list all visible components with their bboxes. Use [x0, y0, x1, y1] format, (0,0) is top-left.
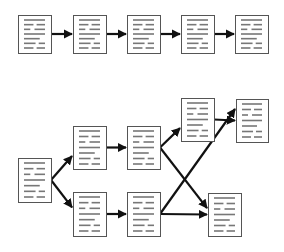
document-icon — [182, 16, 215, 54]
document-icon — [19, 159, 52, 203]
document-icon — [74, 16, 107, 54]
document-icon — [128, 193, 161, 237]
document-icon — [74, 193, 107, 237]
document-icon — [209, 194, 242, 237]
arrow-icon — [214, 120, 235, 121]
document-icon — [128, 127, 161, 170]
arrow-icon — [160, 128, 180, 147]
document-icon — [182, 99, 215, 142]
arrow-icon — [51, 156, 72, 180]
document-icon — [237, 100, 269, 143]
document-icon — [19, 16, 52, 54]
arrow-icon — [51, 180, 72, 207]
document-icon — [236, 16, 269, 54]
arrow-icon — [160, 214, 207, 215]
document-icon — [128, 16, 161, 54]
document-icon — [74, 127, 107, 170]
documents-layer — [19, 16, 269, 237]
document-flow-diagram — [0, 0, 284, 252]
